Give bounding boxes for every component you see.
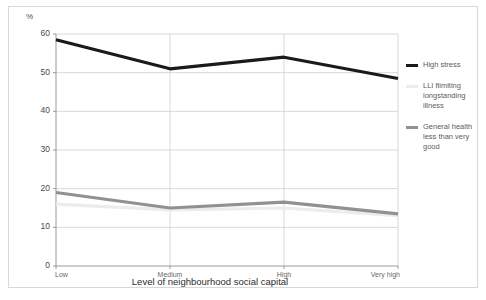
data-series-group: [56, 40, 398, 216]
legend-item-label: LLI flimiting longstanding illness: [423, 81, 480, 111]
legend-item[interactable]: High stress: [406, 60, 480, 70]
chart-figure: % 0102030405060 LowMediumHighVery high L…: [0, 0, 486, 300]
legend-item-label: High stress: [423, 60, 480, 70]
y-axis-tick-label: 50: [24, 67, 50, 77]
legend-item[interactable]: General health less than very good: [406, 122, 480, 152]
series-line-general-health-less-than-very-good: [56, 193, 398, 214]
y-axis-tick-label: 0: [24, 260, 50, 270]
y-axis-tick-label: 10: [24, 221, 50, 231]
x-axis-title: Level of neighbourhood social capital: [0, 276, 420, 287]
y-axis-tick-label: 20: [24, 183, 50, 193]
legend-swatch-lli: [406, 85, 418, 88]
legend-swatch-general-health: [406, 126, 418, 129]
legend-swatch-high-stress: [406, 64, 418, 67]
legend-item-label: General health less than very good: [423, 122, 480, 152]
y-axis-tick-label: 60: [24, 28, 50, 38]
legend-item[interactable]: LLI flimiting longstanding illness: [406, 81, 480, 111]
chart-legend: High stressLLI flimiting longstanding il…: [406, 60, 480, 163]
y-axis-tick-label: 40: [24, 105, 50, 115]
y-axis-tick-label: 30: [24, 144, 50, 154]
